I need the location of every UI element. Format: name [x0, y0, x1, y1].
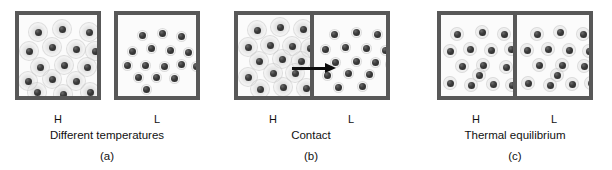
- panel-b-label-l: L: [331, 113, 371, 125]
- gas-particle: [34, 89, 41, 96]
- gas-particle: [382, 47, 389, 54]
- gas-particle: [256, 58, 263, 65]
- gas-particle: [476, 72, 483, 79]
- gas-particle: [447, 48, 454, 55]
- gas-particle: [73, 78, 80, 85]
- gas-particle: [559, 62, 566, 69]
- gas-particle: [353, 58, 360, 65]
- gas-particle: [139, 32, 146, 39]
- gas-particle: [193, 63, 200, 70]
- gas-particle: [159, 30, 166, 37]
- panel-c-label-l: L: [534, 113, 574, 125]
- gas-particle: [359, 83, 366, 90]
- panel-c-box-right: [515, 11, 593, 100]
- arrow-shaft: [292, 67, 326, 70]
- gas-particle: [161, 63, 168, 70]
- gas-particle: [588, 80, 594, 87]
- gas-particle: [300, 26, 307, 33]
- panel-b: H L Contact (b): [204, 0, 408, 170]
- gas-particle: [254, 27, 261, 34]
- gas-particle: [335, 84, 342, 91]
- gas-particle: [87, 89, 94, 96]
- panel-c-caption: Thermal equilibrium: [405, 129, 612, 142]
- gas-particle: [454, 31, 461, 38]
- panel-a-label-l: L: [137, 113, 177, 125]
- gas-particle: [480, 62, 487, 69]
- gas-particle: [49, 76, 56, 83]
- gas-particle: [554, 72, 561, 79]
- gas-particle: [124, 62, 131, 69]
- gas-particle: [479, 29, 486, 36]
- thermal-equilibrium-figure: H L Different temperatures (a) H L Conta…: [0, 0, 612, 170]
- gas-particle: [245, 44, 252, 51]
- gas-particle: [277, 24, 284, 31]
- gas-particle: [178, 61, 185, 68]
- gas-particle: [73, 46, 80, 53]
- panel-a-caption: Different temperatures: [0, 129, 217, 142]
- gas-particle: [501, 31, 508, 38]
- gas-particle: [289, 43, 296, 50]
- gas-particle: [129, 48, 136, 55]
- panel-c-gas-left: [441, 15, 513, 96]
- panel-c-letter: (c): [485, 150, 545, 163]
- gas-particle: [26, 48, 33, 55]
- gas-particle: [342, 44, 349, 51]
- gas-particle: [569, 81, 576, 88]
- gas-particle: [298, 58, 305, 65]
- gas-particle: [467, 46, 474, 53]
- gas-particle: [322, 46, 329, 53]
- gas-particle: [580, 31, 587, 38]
- panel-c-label-h: H: [456, 113, 496, 125]
- gas-particle: [468, 82, 475, 89]
- gas-particle: [586, 48, 593, 55]
- gas-particle: [60, 91, 67, 98]
- gas-particle: [167, 47, 174, 54]
- panel-a-box-hot: [15, 11, 101, 100]
- gas-particle: [49, 44, 56, 51]
- gas-particle: [545, 46, 552, 53]
- gas-particle: [534, 31, 541, 38]
- gas-particle: [490, 81, 497, 88]
- gas-particle: [142, 62, 149, 69]
- gas-particle: [557, 29, 564, 36]
- gas-particle: [37, 64, 44, 71]
- gas-particle: [366, 71, 373, 78]
- panel-a-label-h: H: [38, 113, 78, 125]
- gas-particle: [508, 46, 515, 53]
- particle-halo: [385, 59, 391, 70]
- gas-particle: [374, 31, 381, 38]
- gas-particle: [387, 61, 391, 68]
- gas-particle: [59, 26, 66, 33]
- panel-b-gas-hot: [238, 15, 310, 96]
- gas-particle: [372, 59, 379, 66]
- panel-b-label-h: H: [253, 113, 293, 125]
- gas-particle: [524, 47, 531, 54]
- gas-particle: [86, 29, 93, 36]
- gas-particle: [148, 45, 155, 52]
- panel-b-box-cold: [312, 11, 390, 100]
- gas-particle: [459, 63, 466, 70]
- gas-particle: [270, 70, 277, 77]
- arrow-head: [325, 63, 336, 73]
- panel-c-gas-right: [517, 15, 589, 96]
- gas-particle: [363, 45, 370, 52]
- gas-particle: [245, 74, 252, 81]
- gas-particle: [566, 47, 573, 54]
- gas-particle: [267, 42, 274, 49]
- gas-particle: [353, 29, 360, 36]
- panel-b-box-hot: [234, 11, 312, 100]
- gas-particle: [185, 49, 192, 56]
- gas-particle: [345, 70, 352, 77]
- panel-a-gas-cold: [118, 15, 196, 96]
- gas-particle: [547, 82, 554, 89]
- gas-particle: [35, 29, 42, 36]
- gas-particle: [92, 48, 99, 55]
- panel-b-gas-cold: [314, 15, 386, 96]
- gas-particle: [536, 62, 543, 69]
- panel-c: H L Thermal equilibrium (c): [408, 0, 612, 170]
- gas-particle: [324, 72, 331, 79]
- panel-a-letter: (a): [77, 150, 137, 163]
- panel-a-gas-hot: [19, 15, 97, 96]
- gas-particle: [257, 86, 264, 93]
- gas-particle: [143, 86, 150, 93]
